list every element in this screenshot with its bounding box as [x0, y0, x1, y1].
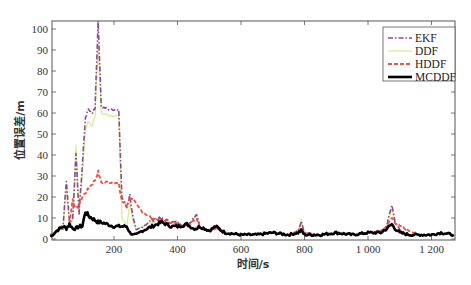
y-tick-label: 70 [37, 86, 49, 98]
line-chart: 0102030405060708090100 2004006008001 000… [0, 0, 471, 285]
legend-label-hddf: HDDF [415, 58, 446, 70]
y-tick-label: 10 [37, 212, 49, 224]
y-tick-label: 80 [37, 65, 49, 77]
y-tick-label: 60 [37, 107, 49, 119]
y-tick-label: 30 [37, 170, 49, 182]
y-tick-label: 50 [37, 128, 49, 140]
legend: EKFDDFHDDFMCDDF [383, 27, 456, 83]
y-axis-title: 位置误差/m [13, 100, 27, 159]
x-tick-label: 800 [296, 243, 313, 255]
y-tick-label: 40 [37, 149, 49, 161]
x-tick-label: 600 [233, 243, 250, 255]
y-tick-label: 90 [37, 44, 49, 56]
legend-label-mcddf: MCDDF [415, 71, 456, 83]
x-tick-label: 400 [169, 243, 186, 255]
x-axis-title: 时间/s [237, 257, 270, 271]
legend-label-ekf: EKF [415, 32, 437, 44]
x-tick-label: 1 000 [356, 243, 381, 255]
y-tick-label: 100 [32, 23, 49, 35]
y-tick-label: 20 [37, 191, 49, 203]
x-tick-label: 200 [106, 243, 123, 255]
x-tick-label: 1 200 [419, 243, 444, 255]
y-tick-label: 0 [43, 233, 49, 245]
legend-label-ddf: DDF [415, 45, 438, 57]
